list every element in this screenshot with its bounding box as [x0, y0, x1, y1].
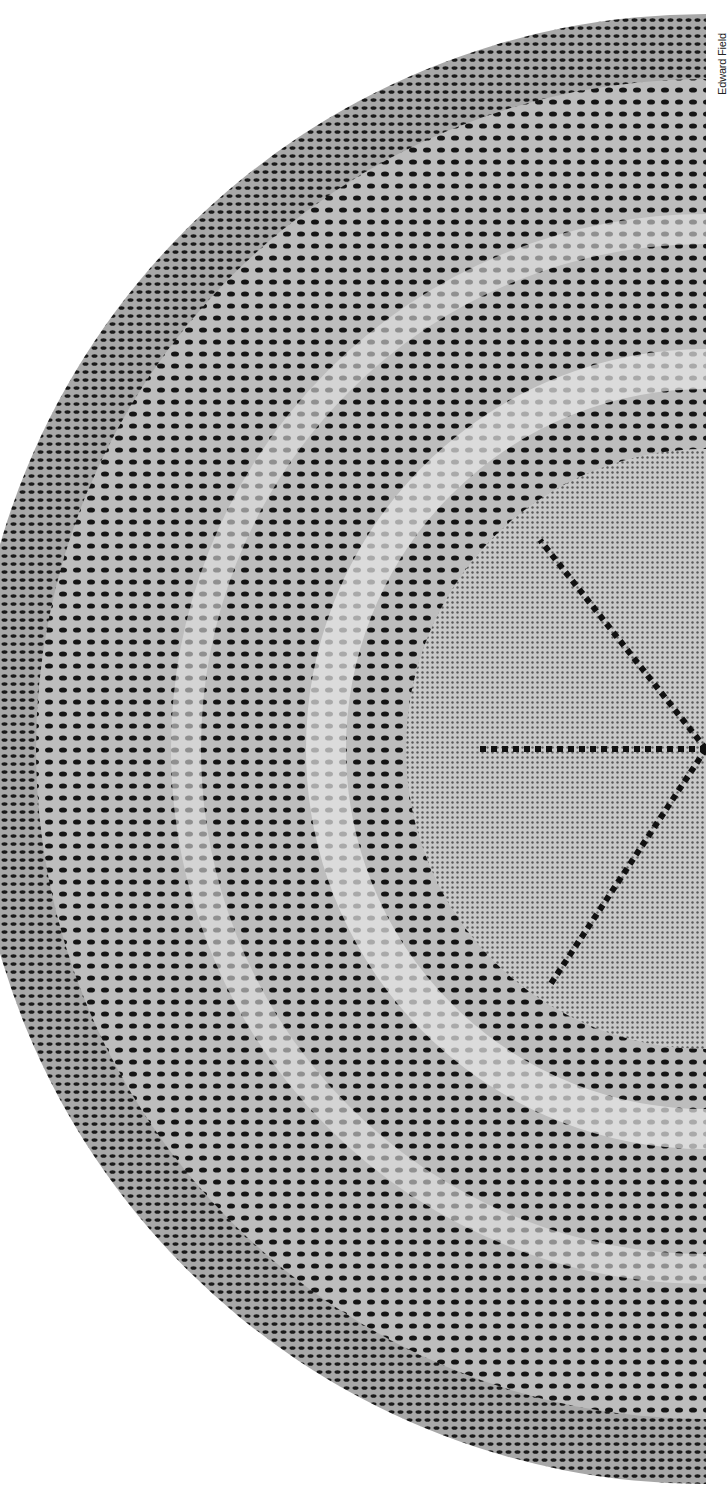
lace-shawl-photo — [0, 0, 706, 1498]
photo-credit: Edward Field — [716, 4, 728, 124]
photo-credit-text: Edward Field — [716, 33, 728, 95]
